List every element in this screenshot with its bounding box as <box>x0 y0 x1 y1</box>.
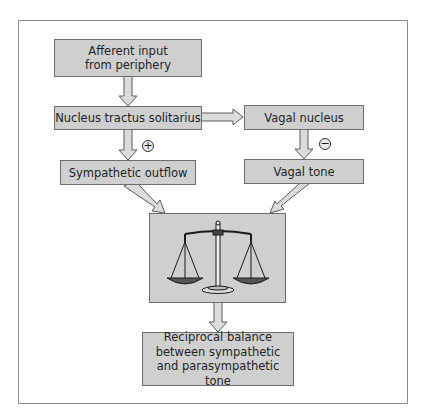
node-afferent-line1: Afferent input <box>85 44 171 58</box>
node-reciprocal-line3: and parasympathetic tone <box>143 359 293 388</box>
node-nucleus-tractus-solitarius: Nucleus tractus solitarius <box>54 106 202 130</box>
scales-icon <box>163 218 273 298</box>
node-reciprocal-balance: Reciprocal balance between sympathetic a… <box>142 332 294 386</box>
plus-sign-icon: + <box>142 140 154 152</box>
node-sympathetic-outflow: Sympathetic outflow <box>60 160 196 185</box>
node-balance <box>149 213 286 303</box>
arrow-afferent-to-nts <box>119 76 137 106</box>
arrow-balance-to-reciprocal <box>209 302 227 332</box>
arrow-sympathetic-to-balance <box>124 184 165 213</box>
arrow-nts-to-vagal <box>201 109 243 125</box>
node-nts-label: Nucleus tractus solitarius <box>55 111 201 125</box>
node-vagal-tone-label: Vagal tone <box>273 165 334 179</box>
minus-sign-icon: − <box>319 138 331 150</box>
node-vagal-tone: Vagal tone <box>244 159 364 184</box>
arrow-nts-to-sympathetic <box>119 129 137 160</box>
arrow-tone-to-balance <box>270 183 310 213</box>
node-sympathetic-label: Sympathetic outflow <box>69 166 188 180</box>
node-reciprocal-line2: between sympathetic <box>143 345 293 360</box>
node-afferent-input: Afferent input from periphery <box>54 39 202 77</box>
node-vagal-nucleus: Vagal nucleus <box>244 105 364 130</box>
node-reciprocal-line1: Reciprocal balance <box>143 330 293 345</box>
node-vagal-nucleus-label: Vagal nucleus <box>264 111 344 125</box>
node-afferent-line2: from periphery <box>85 58 171 72</box>
arrow-vagal-to-tone <box>295 129 313 159</box>
